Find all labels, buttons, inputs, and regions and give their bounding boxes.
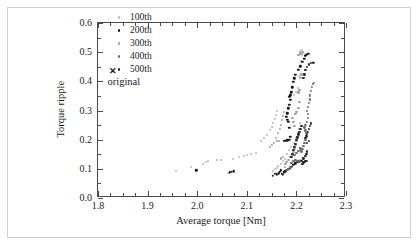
- data-point: [306, 120, 308, 122]
- x-tick-label: 2.0: [191, 201, 204, 211]
- x-tick-minor: [110, 193, 111, 196]
- x-tick-minor-top: [284, 23, 285, 26]
- data-point: [306, 109, 308, 111]
- legend-item-300th[interactable]: 300th: [108, 37, 152, 50]
- data-point: [309, 94, 311, 96]
- data-point: [282, 111, 284, 113]
- data-point: [289, 99, 291, 101]
- legend-label: 200th: [130, 26, 152, 36]
- legend-marker-icon: [108, 42, 130, 45]
- data-point: [293, 77, 295, 79]
- data-point: [297, 106, 299, 108]
- y-tick-minor: [98, 183, 101, 184]
- x-tick-top: [247, 23, 248, 28]
- x-tick-top: [346, 23, 347, 28]
- data-point: [309, 98, 311, 100]
- x-tick-minor: [272, 193, 273, 196]
- x-tick-label: 2.3: [340, 201, 353, 211]
- data-point: [305, 160, 307, 162]
- data-point: [298, 89, 300, 91]
- x-tick-minor: [135, 193, 136, 196]
- data-point: [288, 139, 290, 141]
- y-tick-right: [339, 23, 344, 24]
- original-x-marker-icon: ✕: [109, 67, 117, 76]
- data-point: [297, 91, 299, 93]
- data-point: [301, 148, 303, 150]
- data-point: [275, 114, 277, 116]
- data-point: [190, 166, 192, 168]
- legend-label: 500th: [130, 65, 152, 75]
- data-point: [307, 53, 309, 55]
- data-point: [300, 73, 302, 75]
- legend-item-100th[interactable]: 100th: [108, 11, 152, 24]
- y-tick-right: [339, 52, 344, 53]
- y-tick-right: [339, 111, 344, 112]
- data-point: [302, 145, 304, 147]
- data-point: [274, 118, 276, 120]
- data-point: [271, 126, 273, 128]
- y-axis-title-text: Torque ripple: [56, 81, 67, 138]
- data-point: [290, 146, 292, 148]
- figure-root: Torque ripple Average torque [Nm] 0.00.1…: [0, 0, 418, 245]
- legend-label: 400th: [130, 52, 152, 62]
- data-point: [303, 73, 305, 75]
- y-tick-right: [339, 198, 344, 199]
- data-point: [243, 155, 245, 157]
- x-tick-minor: [334, 193, 335, 196]
- data-point: [207, 160, 209, 162]
- legend-item-400th[interactable]: 400th: [108, 50, 152, 63]
- data-point: [276, 167, 278, 169]
- legend-marker-icon: [108, 55, 130, 58]
- x-tick-minor: [185, 193, 186, 196]
- x-tick-minor-top: [321, 23, 322, 26]
- y-axis-title: Torque ripple: [54, 22, 68, 197]
- x-tick-minor: [284, 193, 285, 196]
- data-point: [266, 134, 268, 136]
- data-point: [293, 94, 295, 96]
- y-tick-label: 0.0: [80, 193, 93, 203]
- data-point: [272, 141, 274, 143]
- y-tick-minor: [98, 125, 101, 126]
- data-point: [232, 158, 234, 160]
- data-point: [289, 166, 291, 168]
- data-point: [304, 129, 306, 131]
- data-point: [195, 169, 197, 171]
- x-tick: [148, 191, 149, 196]
- data-point: [307, 106, 309, 108]
- data-point: [285, 161, 287, 163]
- x-tick-label: 1.9: [141, 201, 154, 211]
- data-point: [287, 120, 289, 122]
- x-tick: [247, 191, 248, 196]
- data-point: [255, 152, 257, 154]
- data-point: [295, 151, 297, 153]
- data-point: [288, 127, 290, 129]
- data-point: [293, 154, 295, 156]
- data-point: [297, 54, 299, 56]
- data-point: [216, 159, 218, 161]
- data-point: [303, 126, 305, 128]
- y-tick: [98, 111, 103, 112]
- x-tick-top: [197, 23, 198, 28]
- data-point: [308, 102, 310, 104]
- y-tick-minor-right: [341, 67, 344, 68]
- data-point: [271, 174, 273, 176]
- x-tick-minor-top: [185, 23, 186, 26]
- data-point: [286, 112, 288, 114]
- legend-item-200th[interactable]: 200th: [108, 24, 152, 37]
- data-point: [301, 54, 303, 56]
- data-point: [297, 133, 299, 135]
- x-tick: [98, 191, 99, 196]
- x-tick-minor: [259, 193, 260, 196]
- data-point: [279, 157, 281, 159]
- y-tick: [98, 140, 103, 141]
- data-point: [276, 110, 278, 112]
- y-tick-right: [339, 81, 344, 82]
- y-tick-minor-right: [341, 183, 344, 184]
- data-point: [307, 113, 309, 115]
- data-point: [302, 77, 304, 79]
- data-point: [298, 101, 300, 103]
- data-point: [299, 65, 301, 67]
- x-tick-minor: [234, 193, 235, 196]
- data-point: [269, 129, 271, 131]
- x-tick-minor-top: [334, 23, 335, 26]
